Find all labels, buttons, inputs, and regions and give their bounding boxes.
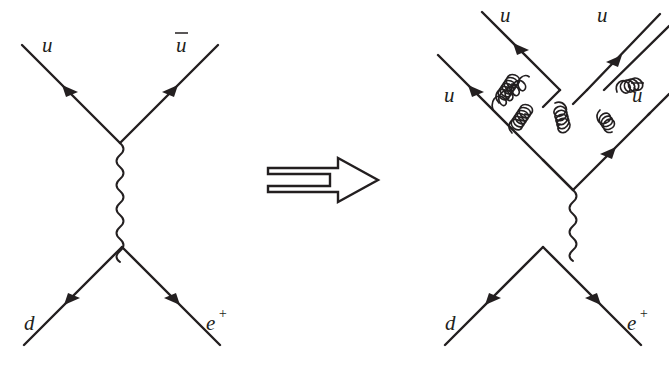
right-outgoing-positron-arrow (585, 293, 601, 305)
right-gluon-4-coil (597, 110, 614, 133)
right-photon-propagator (570, 190, 577, 261)
left-label-d: d (24, 311, 35, 335)
right-label-positron-group: e + (627, 306, 648, 335)
left-label-e: e (206, 311, 215, 335)
right-outer-ubar-arrow (600, 147, 616, 159)
left-label-u: u (42, 33, 53, 57)
left-incoming-d-arrow (64, 293, 80, 305)
right-label-left-u: u (444, 83, 455, 107)
right-label-ubar: u (632, 83, 643, 107)
right-corrected-diagram: u u u u d e + (438, 3, 669, 345)
right-left-u-arrow (468, 85, 484, 97)
right-label-e-superscript: + (639, 306, 648, 321)
right-gluon-3-group (554, 102, 570, 132)
feynman-diagram-figure: u u d e + (0, 0, 669, 368)
right-gluon-3-coil (554, 102, 570, 132)
right-label-d: d (445, 311, 456, 335)
left-outgoing-ubar-arrow (162, 85, 178, 97)
right-label-ubar-group: u (631, 83, 644, 107)
right-inner-apex-left (543, 90, 560, 107)
right-label-e: e (627, 311, 636, 335)
right-left-arm-to-vertex (543, 160, 573, 190)
right-label-top-left-u: u (500, 3, 511, 27)
implies-arrow (268, 158, 378, 202)
diagram-canvas: u u d e + (0, 0, 669, 368)
left-incoming-u-arrow (62, 85, 78, 97)
right-inner-v-right (573, 90, 587, 104)
right-left-u-line (438, 55, 543, 160)
left-label-positron-group: e + (206, 306, 227, 335)
right-label-top-right-u: u (597, 3, 608, 27)
left-label-ubar-group: u (175, 33, 188, 57)
right-outer-ubar-tail (648, 94, 669, 115)
left-outgoing-positron-arrow (164, 293, 180, 305)
implies-arrow-shape (268, 158, 378, 202)
left-tree-diagram: u u d e + (22, 33, 227, 345)
left-photon-propagator (117, 143, 124, 262)
right-incoming-d-arrow (485, 293, 501, 305)
right-top-right-u-arrow (606, 55, 622, 67)
left-label-e-superscript: + (218, 306, 227, 321)
left-label-ubar: u (176, 33, 187, 57)
right-top-left-u-arrow (513, 43, 529, 55)
